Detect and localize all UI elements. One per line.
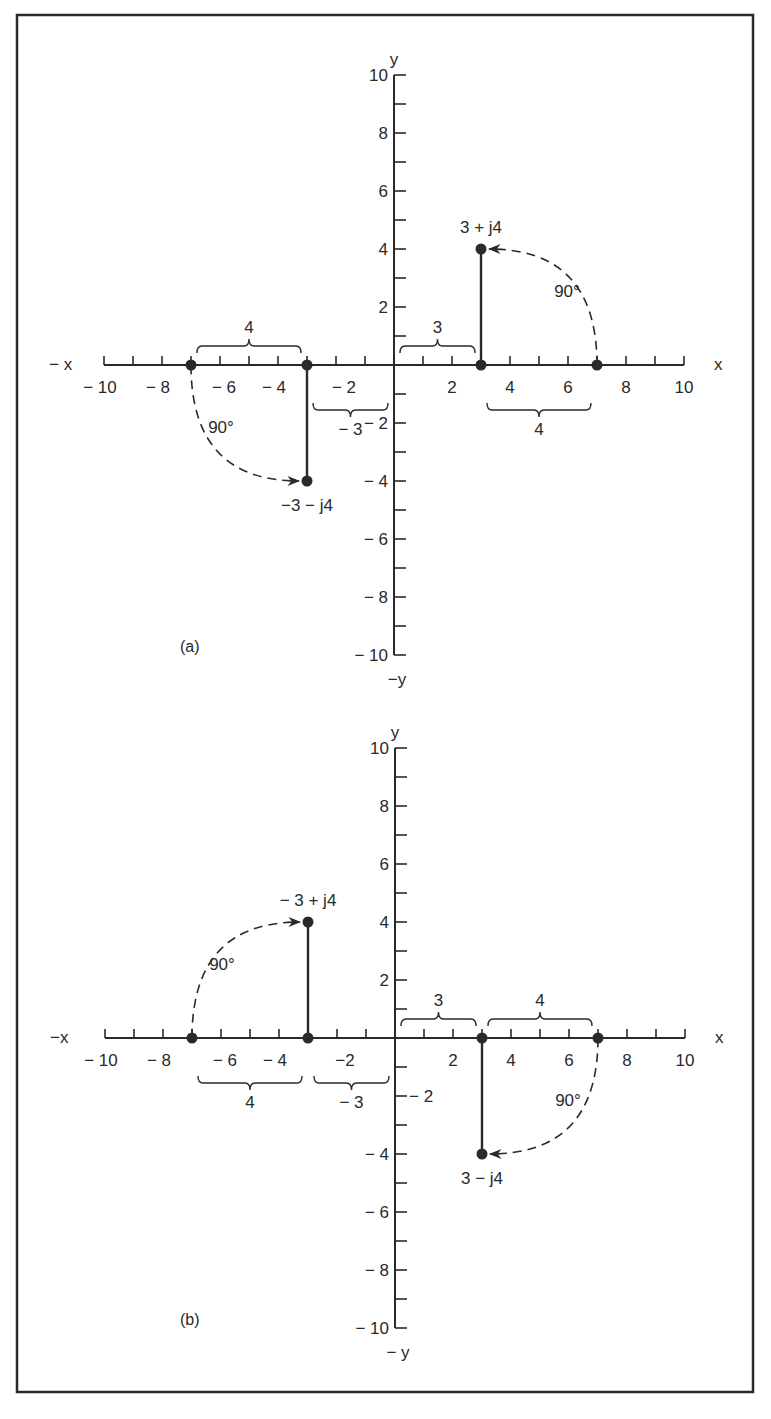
y-axis-label: y bbox=[390, 50, 399, 69]
axis-point bbox=[302, 360, 313, 371]
x-tick-label: − 6 bbox=[212, 378, 236, 397]
x-tick-label: 4 bbox=[505, 378, 514, 397]
brace bbox=[198, 1076, 302, 1090]
x-tick-label: 8 bbox=[622, 1051, 631, 1070]
phasor-point bbox=[477, 1149, 488, 1160]
y-tick-label: 6 bbox=[379, 182, 388, 201]
y-tick-label: 8 bbox=[380, 797, 389, 816]
figure-frame bbox=[17, 15, 753, 1392]
x-axis-label: x bbox=[715, 1028, 724, 1047]
angle-label: 90° bbox=[555, 1091, 581, 1110]
x-tick-label: 10 bbox=[676, 1051, 695, 1070]
x-tick-label: − 10 bbox=[83, 378, 117, 397]
brace-label: 4 bbox=[244, 318, 253, 337]
y-tick-label: 10 bbox=[370, 739, 389, 758]
y-tick-label: − 10 bbox=[355, 1319, 389, 1338]
brace bbox=[197, 339, 301, 353]
brace-label: 4 bbox=[534, 420, 543, 439]
brace bbox=[314, 1076, 389, 1090]
x-tick-label: 10 bbox=[675, 378, 694, 397]
y-tick-label: − 6 bbox=[364, 530, 388, 549]
x-tick-label: 8 bbox=[621, 378, 630, 397]
y-tick-label: − 10 bbox=[354, 646, 388, 665]
point-label: −3 − j4 bbox=[281, 496, 333, 515]
phasor-point bbox=[476, 244, 487, 255]
x-tick-label: 2 bbox=[448, 1051, 457, 1070]
x-tick-label: − 2 bbox=[332, 378, 356, 397]
neg-y-axis-label: − y bbox=[386, 1343, 410, 1362]
neg-y-axis-label: −y bbox=[388, 670, 407, 689]
x-tick-label: − 4 bbox=[263, 1051, 287, 1070]
brace bbox=[401, 1012, 476, 1026]
brace-label: 4 bbox=[245, 1093, 254, 1112]
y-axis-label: y bbox=[391, 723, 400, 742]
point-label: − 3 + j4 bbox=[280, 891, 337, 910]
x-tick-label: −2 bbox=[335, 1051, 354, 1070]
axis-point bbox=[476, 360, 487, 371]
brace-label: − 3 bbox=[338, 420, 362, 439]
y-tick-label: − 8 bbox=[365, 1261, 389, 1280]
neg-x-axis-label: − x bbox=[49, 355, 73, 374]
brace-label: 3 bbox=[434, 991, 443, 1010]
panel-b: − 10− 8− 6− 4−2246810108642− 2− 4− 6− 8−… bbox=[50, 723, 724, 1362]
y-tick-label: 2 bbox=[379, 298, 388, 317]
point-label: 3 + j4 bbox=[460, 218, 502, 237]
y-tick-label: 2 bbox=[380, 971, 389, 990]
y-tick-label: 4 bbox=[380, 913, 389, 932]
angle-label: 90° bbox=[209, 955, 235, 974]
y-tick-label: − 4 bbox=[364, 472, 388, 491]
phasor-point bbox=[302, 476, 313, 487]
brace-label: 3 bbox=[433, 318, 442, 337]
y-tick-label: 6 bbox=[380, 855, 389, 874]
x-axis-label: x bbox=[714, 355, 723, 374]
x-tick-label: 6 bbox=[564, 1051, 573, 1070]
complex-plane-figure: − 10− 8− 6− 4− 2246810108642− 4− 6− 8− 1… bbox=[0, 0, 771, 1419]
panel-label: (a) bbox=[180, 638, 200, 655]
panel-a: − 10− 8− 6− 4− 2246810108642− 4− 6− 8− 1… bbox=[49, 50, 723, 689]
y-tick-label: − 8 bbox=[364, 588, 388, 607]
brace-label: 4 bbox=[535, 991, 544, 1010]
angle-label: 90° bbox=[554, 282, 580, 301]
brace bbox=[488, 1012, 592, 1026]
x-tick-label: − 8 bbox=[147, 1051, 171, 1070]
brace-label: − 3 bbox=[339, 1093, 363, 1112]
rotation-arc bbox=[192, 922, 300, 1038]
phasor-point bbox=[303, 917, 314, 928]
x-tick-label: 4 bbox=[506, 1051, 515, 1070]
y-tick-label: − 6 bbox=[365, 1203, 389, 1222]
y-tick-label: 10 bbox=[369, 66, 388, 85]
panel-label: (b) bbox=[180, 1311, 200, 1328]
y-tick-label: − 4 bbox=[365, 1145, 389, 1164]
brace bbox=[487, 403, 591, 417]
y-tick-label: − 2 bbox=[364, 414, 388, 433]
neg-x-axis-label: −x bbox=[50, 1028, 69, 1047]
x-tick-label: 2 bbox=[447, 378, 456, 397]
x-tick-label: − 6 bbox=[213, 1051, 237, 1070]
x-tick-label: − 4 bbox=[262, 378, 286, 397]
x-tick-label: 6 bbox=[563, 378, 572, 397]
axis-point bbox=[477, 1033, 488, 1044]
x-tick-label: − 10 bbox=[84, 1051, 118, 1070]
axis-point bbox=[303, 1033, 314, 1044]
y-tick-label: 8 bbox=[379, 124, 388, 143]
angle-label: 90° bbox=[208, 418, 234, 437]
y-tick-label: 4 bbox=[379, 240, 388, 259]
brace bbox=[400, 339, 475, 353]
x-tick-label: − 8 bbox=[146, 378, 170, 397]
y-tick-label: − 2 bbox=[409, 1087, 433, 1106]
point-label: 3 − j4 bbox=[461, 1169, 503, 1188]
rotation-arc bbox=[489, 249, 597, 365]
